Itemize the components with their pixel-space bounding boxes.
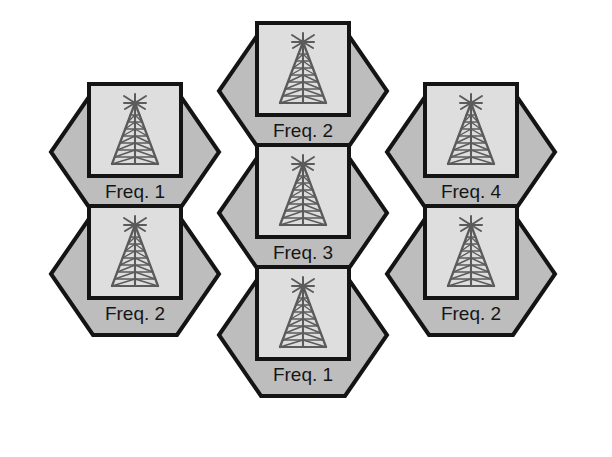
frequency-label-cell-top-center: Freq. 2	[273, 120, 333, 141]
tower-card-cell-center[interactable]	[257, 145, 349, 237]
tower-card-cell-top-center[interactable]	[257, 23, 349, 115]
tower-card-cell-upper-left[interactable]	[89, 84, 181, 176]
frequency-label-cell-center: Freq. 3	[273, 242, 333, 263]
tower-card-cell-lower-right[interactable]	[425, 206, 517, 298]
cell-layout-svg: Freq. 2Freq. 1Freq. 4Freq. 3Freq. 2Freq.…	[0, 0, 612, 457]
frequency-label-cell-bottom-center: Freq. 1	[273, 364, 333, 385]
frequency-label-cell-upper-right: Freq. 4	[441, 181, 502, 202]
frequency-label-cell-lower-right: Freq. 2	[441, 303, 501, 324]
diagram-canvas: Freq. 2Freq. 1Freq. 4Freq. 3Freq. 2Freq.…	[0, 0, 612, 457]
tower-card-cell-upper-right[interactable]	[425, 84, 517, 176]
frequency-label-cell-lower-left: Freq. 2	[105, 303, 165, 324]
tower-card-cell-lower-left[interactable]	[89, 206, 181, 298]
frequency-label-cell-upper-left: Freq. 1	[105, 181, 165, 202]
tower-card-cell-bottom-center[interactable]	[257, 267, 349, 359]
